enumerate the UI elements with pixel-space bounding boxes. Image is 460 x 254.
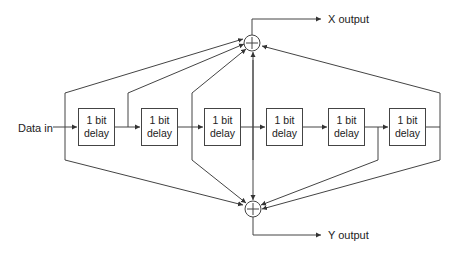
y-output-arrow (253, 217, 321, 235)
adder-y (245, 201, 261, 217)
x-output-label: X output (328, 13, 369, 25)
delay-block-1: 1 bit delay (78, 108, 115, 146)
delay-label-line1: 1 bit (150, 114, 170, 127)
adder-x (244, 35, 260, 51)
delay-block-4: 1 bit delay (266, 108, 303, 146)
delay-block-5: 1 bit delay (328, 108, 365, 146)
delay-block-2: 1 bit delay (141, 108, 178, 146)
delay-label-line1: 1 bit (337, 114, 357, 127)
delay-label-line1: 1 bit (275, 114, 295, 127)
delay-block-6: 1 bit delay (389, 108, 426, 146)
delay-block-3: 1 bit delay (204, 108, 241, 146)
delay-label-line1: 1 bit (213, 114, 233, 127)
delay-label-line2: delay (210, 127, 235, 140)
delay-label-line2: delay (395, 127, 420, 140)
delay-label-line1: 1 bit (398, 114, 418, 127)
delay-label-line2: delay (272, 127, 297, 140)
y-output-label: Y output (328, 229, 369, 241)
x-output-arrow (252, 19, 321, 35)
delay-label-line2: delay (147, 127, 172, 140)
delay-label-line2: delay (334, 127, 359, 140)
data-in-label: Data in (18, 122, 53, 134)
delay-label-line2: delay (84, 127, 109, 140)
delay-label-line1: 1 bit (87, 114, 107, 127)
